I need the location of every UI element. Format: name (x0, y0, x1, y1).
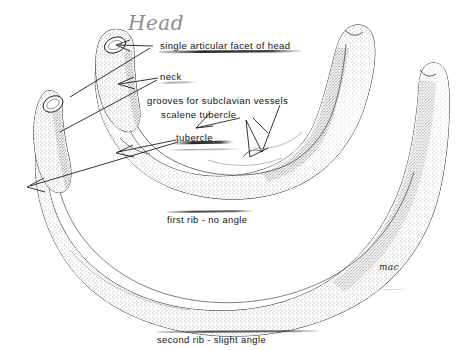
caption-second-rib: second rib - slight angle (157, 334, 266, 345)
underline-first-rib-caption (168, 211, 252, 212)
underline-second-rib-caption (158, 331, 318, 332)
handwritten-head-note: Head (127, 11, 184, 35)
label-scalene-tubercle: scalene tubercle (161, 109, 236, 120)
groove-subclavian-vein (208, 158, 282, 165)
caption-first-rib: first rib - no angle (167, 214, 247, 225)
rib-illustration-canvas: Head single articular facet of head neck… (0, 0, 469, 350)
anatomy-figure: Head single articular facet of head neck… (0, 0, 469, 350)
label-tubercle: tubercle (176, 132, 213, 143)
label-neck: neck (160, 71, 182, 82)
first-rib-head-group (90, 24, 148, 139)
label-grooves-for-subclavian-vessels: grooves for subclavian vessels (147, 95, 288, 106)
leader-scalene-tubercle-tip (250, 148, 268, 157)
leader-grooves-subclavian (262, 105, 280, 152)
leader-scalene-tubercle-down (246, 120, 250, 157)
underline-neck (160, 82, 196, 83)
leader-scalene-tubercle (253, 118, 268, 133)
groove-subclavian-artery (254, 132, 302, 148)
underline-single-articular-facet (160, 51, 300, 52)
artist-signature: mac (379, 262, 399, 272)
label-single-articular-facet-of-head: single articular facet of head (160, 40, 291, 51)
underline-tubercle-secondary (168, 149, 240, 150)
underline-signature-smudge (378, 289, 408, 290)
